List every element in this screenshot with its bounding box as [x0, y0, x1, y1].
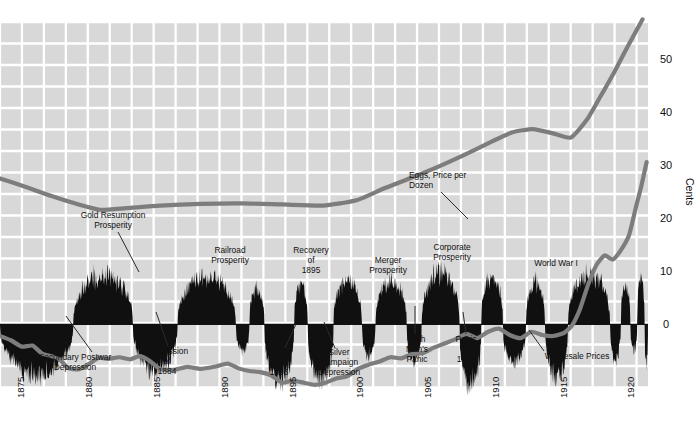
y-tick-label: 50	[660, 53, 672, 65]
chart-canvas: Gold ResumptionProsperitySecondary Postw…	[0, 0, 697, 444]
x-tick-label: 1910	[490, 377, 501, 398]
annotation-line: Depression	[146, 346, 189, 356]
annotation-line: Merger	[375, 255, 402, 265]
y-tick-label: 40	[660, 106, 672, 118]
annotation-line: Prosperity	[433, 252, 472, 262]
x-tick-label: 1895	[287, 377, 298, 398]
annotation-line: Panic	[407, 354, 428, 364]
annotation-wholesale-prices: Wholesale Prices	[545, 351, 610, 361]
x-tick-label: 1875	[15, 377, 26, 398]
y-tick-label: 20	[660, 212, 672, 224]
annotation-line: Prosperity	[211, 255, 250, 265]
annotation-line: 1907	[457, 354, 476, 364]
annotation-line: 1895	[302, 265, 321, 275]
annotation-line: Gold Resumption	[81, 210, 146, 220]
annotation-line: Wholesale Prices	[545, 351, 610, 361]
x-tick-label: 1905	[422, 377, 433, 398]
annotation-line: of	[276, 357, 284, 367]
annotation-line: Recovery	[293, 245, 329, 255]
x-tick-label: 1900	[354, 377, 365, 398]
annotation-line: Dozen	[409, 180, 434, 190]
annotation-line: Prosperity	[94, 220, 133, 230]
y-axis-title: Cents	[684, 178, 696, 205]
annotation-line: Railroad	[214, 245, 246, 255]
y-tick-label: 30	[660, 159, 672, 171]
annotation-line: Panic	[456, 334, 477, 344]
annotation-line: Depression	[318, 367, 361, 377]
annotation-line: Man's	[406, 344, 428, 354]
annotation-rich: RichMan'sPanic	[406, 334, 428, 364]
annotation-line: of	[164, 356, 172, 366]
annotation-line: Campaign	[320, 357, 359, 367]
annotation-line: of	[308, 255, 316, 265]
y-tick-label: 10	[660, 265, 672, 277]
annotation-line: Silver	[329, 347, 350, 357]
economic-chart: Gold ResumptionProsperitySecondary Postw…	[0, 0, 697, 444]
annotation-line: of	[463, 344, 471, 354]
annotation-line: Corporate	[433, 242, 471, 252]
annotation-line: World War I	[534, 258, 578, 268]
annotation-line: Secondary Postwar	[39, 352, 112, 362]
annotation-line: 1893	[270, 367, 289, 377]
annotation-railroad: RailroadProsperity	[211, 245, 250, 265]
annotation-corporate: CorporateProsperity	[433, 242, 472, 262]
annotation-line: Rich	[409, 334, 426, 344]
x-tick-label: 1885	[151, 377, 162, 398]
x-tick-label: 1920	[625, 377, 636, 398]
annotation-line: Prosperity	[369, 265, 408, 275]
x-tick-label: 1880	[83, 377, 94, 398]
annotation-world-war-i: World War I	[534, 258, 578, 268]
annotation-line: Panic	[269, 347, 290, 357]
annotation-line: Depression	[54, 362, 97, 372]
annotation-line: Eggs, Price per	[409, 170, 466, 180]
x-tick-label: 1915	[558, 377, 569, 398]
y-tick-label: 0	[663, 318, 669, 330]
annotation-line: 1884	[158, 366, 177, 376]
x-tick-label: 1890	[219, 377, 230, 398]
